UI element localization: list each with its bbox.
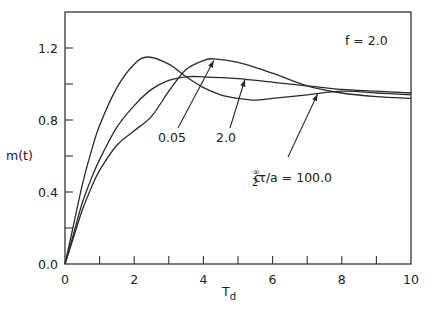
arrow-line [230,80,245,129]
axis-ticks [65,48,376,264]
data-curves [65,57,411,264]
curve-2.0 [65,76,411,264]
arrowhead-icon [208,61,214,68]
arrow-line [178,61,214,128]
y-tick-label: 0.8 [38,113,58,128]
y-axis-title: m(t) [6,148,33,163]
x-axis-title: Td [221,284,236,302]
y-tick-label: 0.4 [38,185,58,200]
x-tick-label: 4 [199,272,207,287]
x-tick-label: 10 [403,272,419,287]
arrowhead-icon [312,94,317,101]
y-tick-label: 0.0 [38,257,58,272]
curve-label-100: c∞2τ/a = 100.0 [252,167,332,188]
chart: 02468100.00.40.81.2 m(t) Td f = 2.0 0.05… [0,0,426,314]
x-tick-label: 8 [338,272,346,287]
arrowhead-icon [240,80,245,87]
plot-frame [65,12,411,264]
x-tick-label: 2 [130,272,138,287]
arrow-line [288,94,318,157]
y-tick-label: 1.2 [38,41,58,56]
annotation-arrows [178,61,318,157]
curve-100.0 [65,57,411,264]
curve-0.05 [65,59,411,264]
x-tick-label: 6 [269,272,277,287]
param-label: f = 2.0 [345,33,388,48]
curve-label-2.0: 2.0 [216,130,236,145]
x-tick-label: 0 [61,272,69,287]
curve-label-0.05: 0.05 [158,130,186,145]
